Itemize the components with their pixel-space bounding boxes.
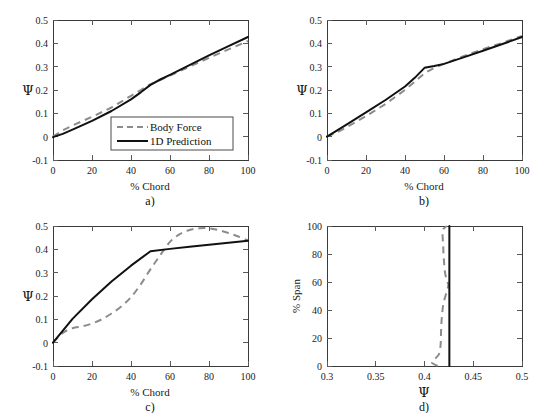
ytick-label: 100 xyxy=(307,221,322,232)
panel-a-plot: 0.5 0.4 0.3 0.2 0.1 0 -0.1 0 20 40 60 80… xyxy=(0,0,273,207)
panel-a: 0.5 0.4 0.3 0.2 0.1 0 -0.1 0 20 40 60 80… xyxy=(0,0,273,207)
ytick-label: 0.1 xyxy=(36,108,49,119)
panel-b-xticks xyxy=(327,20,522,160)
ytick-label: 0.3 xyxy=(36,62,49,73)
panel-c-yticks xyxy=(53,226,248,366)
panel-d-axes xyxy=(327,226,522,366)
xtick-label: 80 xyxy=(204,371,214,382)
xtick-label: 20 xyxy=(87,371,97,382)
xtick-label: 100 xyxy=(515,165,530,176)
panel-b-ytick-labels: 0.5 0.4 0.3 0.2 0.1 0 -0.1 xyxy=(306,15,322,166)
xtick-label: 60 xyxy=(165,165,175,176)
xtick-label: 100 xyxy=(241,165,256,176)
ytick-label: 60 xyxy=(312,277,322,288)
ytick-label: 20 xyxy=(312,333,322,344)
panel-d-xticks xyxy=(327,226,522,366)
panel-a-xtick-labels: 0 20 40 60 80 100 xyxy=(51,165,256,176)
xtick-label: 40 xyxy=(126,371,136,382)
xtick-label: 60 xyxy=(439,165,449,176)
xtick-label: 60 xyxy=(165,371,175,382)
xtick-label: 0.5 xyxy=(516,371,529,382)
panel-d-series-body-force xyxy=(432,226,448,366)
panel-c-plot: 0.5 0.4 0.3 0.2 0.1 0 -0.1 0 20 40 60 80… xyxy=(0,206,273,413)
panel-a-ytick-labels: 0.5 0.4 0.3 0.2 0.1 0 -0.1 xyxy=(32,15,48,166)
ytick-label: -0.1 xyxy=(32,155,48,166)
panel-d-yticks xyxy=(327,226,522,366)
panel-d-plot: 100 80 60 40 20 0 0.3 0.35 0.4 0.45 0.5 … xyxy=(274,206,547,413)
ytick-label: 0.3 xyxy=(310,62,323,73)
panel-c-axes xyxy=(53,226,248,366)
panel-c-ylabel: Ψ xyxy=(22,289,33,304)
panel-a-xlabel: % Chord xyxy=(130,180,170,192)
xtick-label: 0 xyxy=(51,165,56,176)
panel-b-ylabel: Ψ xyxy=(296,83,307,98)
ytick-label: 0.3 xyxy=(36,268,49,279)
ytick-label: 80 xyxy=(312,249,322,260)
xtick-label: 80 xyxy=(478,165,488,176)
xtick-label: 20 xyxy=(361,165,371,176)
panel-c-series-body-force xyxy=(53,228,248,343)
xtick-label: 0 xyxy=(51,371,56,382)
ytick-label: 0.5 xyxy=(36,221,49,232)
ytick-label: 0.1 xyxy=(36,314,49,325)
ytick-label: 0.2 xyxy=(36,85,49,96)
xtick-label: 0.3 xyxy=(321,371,334,382)
panel-b-series-body-force xyxy=(327,36,522,137)
xtick-label: 100 xyxy=(241,371,256,382)
panel-b: 0.5 0.4 0.3 0.2 0.1 0 -0.1 0 20 40 60 80… xyxy=(274,0,547,207)
xtick-label: 0.35 xyxy=(367,371,385,382)
xtick-label: 0.4 xyxy=(418,371,431,382)
ytick-label: 0 xyxy=(43,338,48,349)
panel-d-ytick-labels: 100 80 60 40 20 0 xyxy=(307,221,322,372)
xtick-label: 80 xyxy=(204,165,214,176)
xtick-label: 20 xyxy=(87,165,97,176)
figure-root: 0.5 0.4 0.3 0.2 0.1 0 -0.1 0 20 40 60 80… xyxy=(0,0,547,415)
panel-b-yticks xyxy=(327,20,522,160)
ytick-label: 0 xyxy=(43,132,48,143)
panel-b-series-prediction xyxy=(327,37,522,137)
panel-d-label: d) xyxy=(419,400,429,413)
ytick-label: 40 xyxy=(312,305,322,316)
panel-d: 100 80 60 40 20 0 0.3 0.35 0.4 0.45 0.5 … xyxy=(274,206,547,413)
ytick-label: 0.5 xyxy=(36,15,49,26)
panel-d-ylabel: % Span xyxy=(290,279,302,313)
panel-a-legend: Body Force 1D Prediction xyxy=(111,117,233,150)
panel-c-xtick-labels: 0 20 40 60 80 100 xyxy=(51,371,256,382)
panel-b-axes xyxy=(327,20,522,160)
panel-c-xlabel: % Chord xyxy=(130,386,170,398)
ytick-label: 0.4 xyxy=(36,38,49,49)
ytick-label: 0.1 xyxy=(310,108,323,119)
ytick-label: 0.5 xyxy=(310,15,323,26)
panel-b-xlabel: % Chord xyxy=(404,180,444,192)
panel-c-label: c) xyxy=(145,400,154,413)
panel-c-xticks xyxy=(53,226,248,366)
ytick-label: -0.1 xyxy=(306,155,322,166)
panel-d-xlabel: Ψ xyxy=(418,385,429,400)
ytick-label: 0 xyxy=(317,132,322,143)
xtick-label: 0.45 xyxy=(465,371,483,382)
xtick-label: 40 xyxy=(126,165,136,176)
ytick-label: 0.2 xyxy=(36,291,49,302)
legend-label-prediction: 1D Prediction xyxy=(150,135,212,147)
panel-c-ytick-labels: 0.5 0.4 0.3 0.2 0.1 0 -0.1 xyxy=(32,221,48,372)
panel-c-series-prediction xyxy=(53,241,248,343)
ytick-label: 0.4 xyxy=(310,38,323,49)
panel-b-plot: 0.5 0.4 0.3 0.2 0.1 0 -0.1 0 20 40 60 80… xyxy=(274,0,547,207)
xtick-label: 40 xyxy=(400,165,410,176)
ytick-label: 0.2 xyxy=(310,85,323,96)
ytick-label: -0.1 xyxy=(32,361,48,372)
panel-d-xtick-labels: 0.3 0.35 0.4 0.45 0.5 xyxy=(321,371,529,382)
xtick-label: 0 xyxy=(325,165,330,176)
legend-label-body-force: Body Force xyxy=(150,121,202,133)
panel-b-xtick-labels: 0 20 40 60 80 100 xyxy=(325,165,530,176)
panel-a-ylabel: Ψ xyxy=(22,83,33,98)
ytick-label: 0.4 xyxy=(36,244,49,255)
panel-c: 0.5 0.4 0.3 0.2 0.1 0 -0.1 0 20 40 60 80… xyxy=(0,206,273,413)
